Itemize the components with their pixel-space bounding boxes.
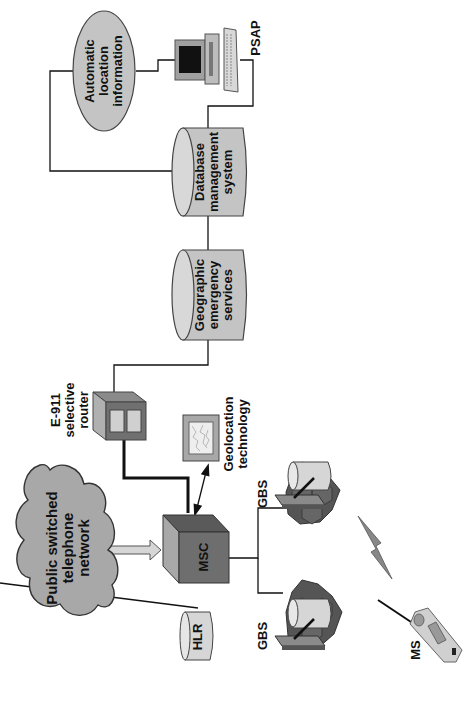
- ali-label-line3: information: [111, 35, 125, 107]
- dbms-label-line3: system: [221, 132, 235, 212]
- ms-label: MS: [409, 640, 423, 660]
- pstn-label-line2: telephone: [60, 491, 76, 604]
- ges-label: Geographic emergency services: [193, 259, 235, 331]
- psap-label-text: PSAP: [249, 20, 263, 55]
- ali-label-line2: location: [97, 35, 111, 107]
- geolocation-frame: [183, 415, 219, 461]
- ges-label-line1: Geographic: [193, 259, 207, 331]
- ges-label-line2: emergency: [207, 259, 221, 331]
- router-label-line2: selective: [63, 383, 77, 438]
- router-label: E-911 selective router: [49, 383, 91, 438]
- router-msc-link: [124, 438, 188, 513]
- geolocation-label-line1: Geolocation: [222, 396, 236, 471]
- pstn-label-line1: Public switched: [44, 491, 60, 604]
- msc-label-text: MSC: [197, 543, 211, 572]
- geolocation-label-line2: technology: [236, 396, 250, 471]
- router-label-line3: router: [77, 383, 91, 438]
- geo-msc-arrow: [192, 464, 211, 516]
- pstn-label: Public switched telephone network: [44, 491, 92, 604]
- computer-icon: [175, 28, 238, 92]
- msc-label: MSC: [197, 543, 211, 572]
- gbs1-label: GBS: [256, 480, 270, 508]
- router-box: [93, 392, 146, 440]
- hlr-label-text: HLR: [191, 624, 205, 651]
- gbs-station-2: [275, 580, 342, 650]
- gbs2-label: GBS: [256, 622, 270, 650]
- gbs1-label-text: GBS: [256, 480, 270, 508]
- psap-label: PSAP: [249, 20, 263, 55]
- lightning-bolt-icon: [358, 516, 392, 579]
- geolocation-label: Geolocation technology: [222, 396, 250, 471]
- dbms-label-line2: management: [207, 132, 221, 212]
- diagram-canvas: Automatic location information PSAP Data…: [0, 0, 469, 702]
- dbms-label-line1: Database: [193, 132, 207, 212]
- pstn-label-line3: network: [76, 491, 92, 604]
- gbs-station-1: [275, 462, 340, 524]
- gbs2-label-text: GBS: [256, 622, 270, 650]
- ms-label-text: MS: [409, 640, 423, 660]
- ali-label: Automatic location information: [83, 35, 125, 107]
- ges-label-line3: services: [221, 259, 235, 331]
- hlr-label: HLR: [191, 624, 205, 651]
- dbms-label: Database management system: [193, 132, 235, 212]
- router-label-line1: E-911: [49, 383, 63, 438]
- ali-label-line1: Automatic: [83, 35, 97, 107]
